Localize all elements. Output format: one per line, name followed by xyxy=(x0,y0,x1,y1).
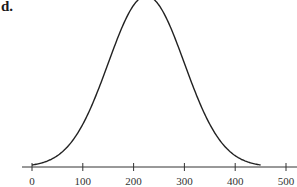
bell-curve-chart: 0100200300400500 xyxy=(0,0,297,187)
x-tick-label: 400 xyxy=(227,175,244,187)
normal-curve xyxy=(32,0,261,165)
x-tick-label: 100 xyxy=(75,175,92,187)
x-tick-label: 300 xyxy=(176,175,193,187)
x-tick-label: 500 xyxy=(278,175,295,187)
x-tick-label: 200 xyxy=(125,175,142,187)
x-tick-label: 0 xyxy=(29,175,35,187)
